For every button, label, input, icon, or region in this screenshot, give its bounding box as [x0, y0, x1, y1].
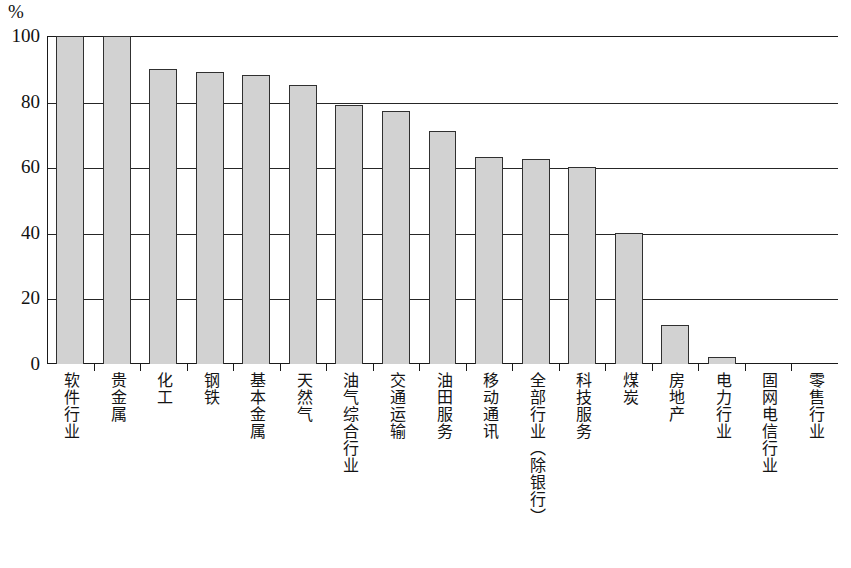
x-axis-category-label: 基本金属	[248, 372, 264, 440]
y-axis-tick-label: 60	[0, 157, 40, 176]
gridline	[48, 168, 838, 169]
x-axis-ticks	[47, 364, 838, 372]
x-axis-tick	[233, 364, 234, 371]
x-axis-category-label: 固网电信行业	[760, 372, 776, 474]
x-axis-tick	[605, 364, 606, 371]
x-axis-category-label: 移动通讯	[481, 372, 497, 440]
x-axis-category-label: 电力行业	[714, 372, 730, 440]
y-axis-tick-label: 100	[0, 26, 40, 45]
x-axis-tick	[466, 364, 467, 371]
x-axis-category-label: 零售行业	[807, 372, 823, 440]
x-axis-category-label: 天然气	[295, 372, 311, 423]
x-axis-category-label: 钢铁	[202, 372, 218, 406]
x-axis-tick	[791, 364, 792, 371]
y-axis-tick-label: 0	[0, 354, 40, 373]
x-axis-tick	[419, 364, 420, 371]
x-axis-category-label: 油气综合行业	[341, 372, 357, 474]
x-axis-tick	[652, 364, 653, 371]
y-axis-tick-label: 20	[0, 288, 40, 307]
x-axis-category-label: 全部行业（除银行）	[528, 372, 544, 525]
x-axis-category-labels: 软件行业贵金属化工钢铁基本金属天然气油气综合行业交通运输油田服务移动通讯全部行业…	[47, 372, 838, 562]
x-axis-tick	[140, 364, 141, 371]
y-axis-unit-label: %	[8, 2, 24, 21]
gridline	[48, 103, 838, 104]
x-axis-category-label: 科技服务	[574, 372, 590, 440]
x-axis-category-label: 煤炭	[621, 372, 637, 406]
x-axis-category-label: 交通运输	[388, 372, 404, 440]
gridline	[48, 299, 838, 300]
x-axis-category-label: 软件行业	[62, 372, 78, 440]
x-axis-tick	[512, 364, 513, 371]
x-axis-tick	[94, 364, 95, 371]
x-axis-tick	[559, 364, 560, 371]
gridline	[48, 234, 838, 235]
x-axis-tick	[280, 364, 281, 371]
y-axis-tick-label: 40	[0, 223, 40, 242]
bar-chart: % 020406080100 软件行业贵金属化工钢铁基本金属天然气油气综合行业交…	[0, 0, 851, 568]
x-axis-tick	[326, 364, 327, 371]
x-axis-tick	[187, 364, 188, 371]
x-axis-category-label: 油田服务	[435, 372, 451, 440]
x-axis-tick	[745, 364, 746, 371]
y-axis-tick-label: 80	[0, 92, 40, 111]
x-axis-tick	[373, 364, 374, 371]
x-axis-category-label: 贵金属	[109, 372, 125, 423]
plot-area	[47, 36, 838, 364]
x-axis-tick	[698, 364, 699, 371]
x-axis-category-label: 房地产	[667, 372, 683, 423]
x-axis-category-label: 化工	[155, 372, 171, 406]
